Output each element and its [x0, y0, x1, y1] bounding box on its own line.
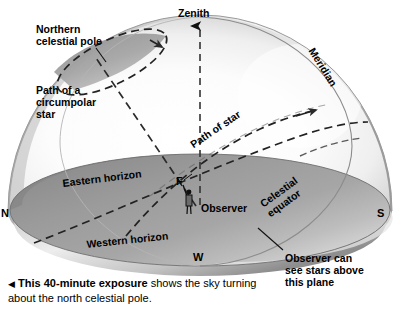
label-path-of-circumpolar-star: Path of a circumpolar star — [36, 85, 96, 120]
caption-bold-text: This 40-minute exposure — [18, 277, 148, 289]
label-northern-celestial-pole: Northern celestial pole — [36, 24, 102, 48]
label-observer-can-see-stars: Observer can see stars above this plane — [285, 253, 364, 288]
label-foot-marker: F — [176, 176, 182, 188]
label-direction-south: S — [377, 207, 384, 219]
label-observer: Observer — [201, 203, 247, 215]
label-zenith: Zenith — [178, 8, 210, 20]
figure-caption: ◀ This 40-minute exposure shows the sky … — [8, 276, 268, 305]
label-direction-north: N — [1, 207, 9, 219]
label-direction-west: W — [193, 251, 203, 263]
dome-highlight — [238, 44, 362, 148]
figure-root: Northern celestial pole Path of a circum… — [0, 0, 400, 309]
caption-arrow-icon: ◀ — [8, 279, 15, 289]
